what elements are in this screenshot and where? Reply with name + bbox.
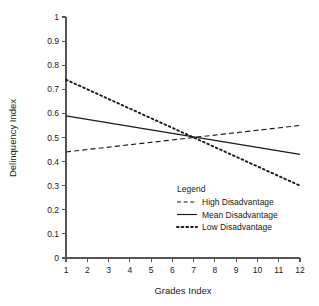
- series-line-dashed: [66, 125, 300, 152]
- legend-title: Legend: [177, 184, 206, 194]
- y-tick-label: 0.6: [47, 108, 59, 118]
- x-tick-label: 10: [253, 265, 263, 275]
- y-axis-ticks: 00.10.20.30.40.50.60.70.80.91: [47, 12, 66, 263]
- y-tick-label: 0: [54, 253, 59, 263]
- chart-series-group: [66, 80, 300, 186]
- chart-legend: Legend High DisadvantageMean Disadvantag…: [177, 184, 278, 232]
- x-tick-label: 1: [64, 265, 69, 275]
- x-tick-label: 6: [170, 265, 175, 275]
- y-tick-label: 0.7: [47, 84, 59, 94]
- legend-label: Mean Disadvantage: [202, 210, 278, 220]
- x-tick-label: 9: [234, 265, 239, 275]
- x-axis-ticks: 123456789101112: [64, 258, 305, 275]
- line-chart: 00.10.20.30.40.50.60.70.80.91 1234567891…: [0, 0, 319, 306]
- x-tick-label: 11: [274, 265, 283, 275]
- legend-label: Low Disadvantage: [202, 222, 272, 232]
- x-tick-label: 3: [106, 265, 111, 275]
- x-tick-label: 12: [295, 265, 305, 275]
- chart-figure: 00.10.20.30.40.50.60.70.80.91 1234567891…: [0, 0, 319, 306]
- x-tick-label: 5: [149, 265, 154, 275]
- x-tick-label: 7: [191, 265, 196, 275]
- y-tick-label: 0.1: [47, 229, 59, 239]
- series-line-solid: [66, 116, 300, 155]
- y-tick-label: 0.8: [47, 60, 59, 70]
- y-axis-title: Delinquency Index: [7, 99, 18, 177]
- y-tick-label: 0.5: [47, 133, 59, 143]
- x-tick-label: 8: [213, 265, 218, 275]
- y-tick-label: 0.4: [47, 157, 59, 167]
- y-tick-label: 0.2: [47, 205, 59, 215]
- y-tick-label: 0.9: [47, 36, 59, 46]
- x-tick-label: 4: [127, 265, 132, 275]
- series-line-dotted: [66, 80, 300, 186]
- legend-label: High Disadvantage: [202, 197, 274, 207]
- y-tick-label: 1: [54, 12, 59, 22]
- x-tick-label: 2: [85, 265, 90, 275]
- y-tick-label: 0.3: [47, 181, 59, 191]
- x-axis-title: Grades Index: [154, 285, 211, 296]
